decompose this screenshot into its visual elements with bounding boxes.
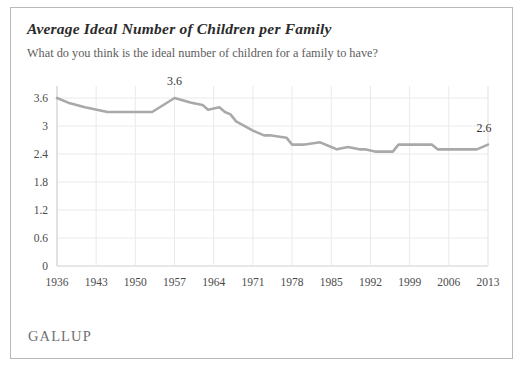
end-label: 2.6 [477, 121, 492, 135]
y-axis-tick-label: 3.6 [34, 92, 49, 104]
x-axis-tick-label: 1957 [163, 276, 186, 288]
x-axis-tick-label: 2013 [477, 276, 500, 288]
x-axis-tick-label: 1992 [359, 276, 382, 288]
line-chart-svg: 00.61.21.82.433.6 1936194319501957196419… [11, 8, 514, 360]
x-axis-tick-label: 1936 [46, 276, 69, 288]
peak-label: 3.6 [167, 74, 182, 88]
y-axis-tick-label: 1.2 [34, 204, 49, 216]
x-axis-tick-label: 1971 [241, 276, 264, 288]
y-axis-tick-label: 2.4 [34, 148, 49, 160]
x-axis-tick-label: 1943 [85, 276, 108, 288]
plot-area: 00.61.21.82.433.6 1936194319501957196419… [11, 8, 514, 360]
y-axis-tick-label: 3 [42, 120, 48, 132]
horizontal-gridlines [57, 98, 488, 266]
x-axis-tick-labels: 1936194319501957196419711978198519921999… [46, 276, 500, 288]
y-axis-tick-label: 1.8 [34, 176, 49, 188]
y-axis-tick-labels: 00.61.21.82.433.6 [34, 92, 49, 272]
x-axis-tick-label: 1964 [202, 276, 225, 288]
data-series-group [57, 98, 488, 152]
y-axis-tick-label: 0 [42, 260, 48, 272]
x-axis-tick-label: 1978 [281, 276, 304, 288]
gallup-logo: GALLUP [28, 328, 92, 345]
x-axis-tick-label: 1999 [398, 276, 421, 288]
gallup-chart-card: Average Ideal Number of Children per Fam… [10, 7, 513, 359]
series-line [57, 98, 488, 152]
x-axis-tick-label: 1985 [320, 276, 343, 288]
x-axis-tick-label: 2006 [437, 276, 460, 288]
x-axis-tick-label: 1950 [124, 276, 147, 288]
y-axis-tick-label: 0.6 [34, 232, 49, 244]
